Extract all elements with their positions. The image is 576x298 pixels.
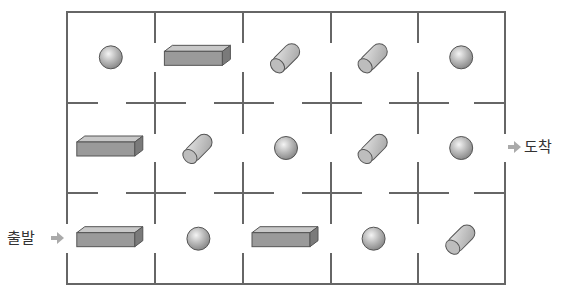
box-icon [164,45,230,65]
box-icon [77,227,143,247]
cylinder-icon [443,222,478,257]
maze-diagram [0,0,576,298]
start-label: 출발 [7,229,35,247]
sphere-icon [275,137,298,160]
box-icon [252,227,318,247]
sphere-icon [450,46,473,69]
finish-arrow-icon [508,141,521,153]
sphere-icon [187,227,210,250]
cylinder-icon [268,40,303,75]
sphere-icon [450,137,473,160]
sphere-icon [362,227,385,250]
sphere-icon [99,46,122,69]
finish-label: 도착 [524,138,552,156]
cylinder-icon [355,131,390,166]
box-icon [77,136,143,156]
cylinder-icon [180,131,215,166]
start-arrow-icon [51,232,64,244]
cylinder-icon [355,40,390,75]
